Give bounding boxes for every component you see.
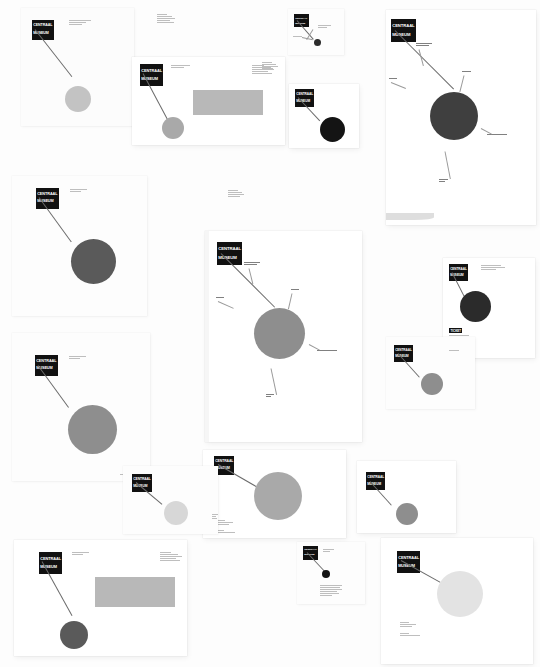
sheet-envelope-bottom[interactable]: CENTRAAL MUSEUM	[14, 540, 187, 656]
brand-dot	[60, 621, 88, 649]
address-window	[95, 577, 175, 607]
ticket-label: TICKET	[449, 328, 462, 333]
sheet-letterhead-dark-dot[interactable]: CENTRAAL MUSEUM	[12, 176, 147, 316]
leader-line-main	[395, 30, 454, 89]
logo-line-1: CENTRAAL	[304, 549, 317, 551]
logo-line-1: CENTRAAL	[33, 24, 52, 28]
annotation-line-4	[309, 344, 320, 351]
annotation-bezoek	[389, 78, 397, 80]
sheet-card-grey-dot[interactable]: CENTRAAL MUSEUM	[386, 337, 475, 409]
sheet-card-pale-dot[interactable]: CENTRAAL MUSEUM	[123, 466, 218, 534]
annotation-agenda	[462, 71, 471, 73]
sender-microtext	[171, 65, 190, 69]
logo-line-1: CENTRAAL	[395, 349, 412, 352]
leader-line	[218, 464, 257, 487]
sheet-poster-pale-dot[interactable]: CENTRAAL MUSEUM	[381, 538, 533, 664]
logo-line-1: CENTRAAL	[296, 93, 313, 96]
annotation-line-2	[459, 75, 464, 92]
logo-line-2: MUSEUM	[218, 256, 241, 260]
card-microtext-right	[318, 25, 331, 29]
brand-dot	[164, 501, 188, 525]
sheet-letterhead-portrait[interactable]: CENTRAAL MUSEUM	[21, 8, 134, 126]
annotation-tentoonstelling	[317, 350, 337, 352]
address-microtext	[69, 20, 91, 26]
card-microtext-right	[323, 549, 334, 553]
logo-line-1: CENTRAAL	[40, 557, 61, 561]
annotation-bezoek	[216, 297, 224, 299]
footer-microtext-2	[215, 530, 235, 534]
address-window	[193, 90, 263, 115]
artboard: CENTRAAL MUSEUM CENTRAAL MUSEUM CENTRAAL…	[0, 0, 540, 667]
annotation-line-2	[288, 293, 293, 309]
logo-line-1: CENTRAAL	[37, 193, 57, 197]
sheet-letterhead-grey-dot[interactable]: CENTRAAL MUSEUM	[12, 333, 150, 481]
logo-line-2: MUSEUM	[367, 483, 384, 486]
sheet-business-card-black-dot[interactable]: CENTRAAL MUSEUM	[289, 84, 359, 148]
brand-dot	[314, 39, 321, 46]
sheet-poster-annotated-dark[interactable]: CENTRAAL MUSEUM	[386, 10, 536, 225]
brand-dot	[322, 570, 330, 578]
brand-dot	[71, 239, 116, 284]
stamp-microtext	[160, 552, 182, 562]
address-microtext	[70, 189, 87, 193]
brand-dot	[68, 405, 117, 454]
logo-line-1: CENTRAAL	[367, 476, 384, 479]
logo-line-1: CENTRAAL	[450, 268, 467, 271]
bottom-band	[386, 213, 434, 220]
logo-line-2: MUSEUM	[392, 33, 414, 37]
ticket-header-microtext	[481, 265, 505, 271]
sheet-card-grey-dot-2[interactable]: CENTRAAL MUSEUM	[357, 461, 456, 533]
annotation-line-3	[391, 82, 406, 89]
logo-line-1: CENTRAAL	[141, 69, 162, 73]
logo-line-1: CENTRAAL	[392, 24, 414, 28]
sender-microtext	[72, 552, 89, 556]
logo-line-1: CENTRAAL	[218, 247, 241, 251]
brand-dot	[430, 92, 478, 140]
sheet-card-tiny-black-dot[interactable]: CENTRAAL MUSEUM	[297, 542, 365, 604]
poster-edge-highlight	[205, 231, 209, 442]
brand-dot	[421, 373, 443, 395]
brand-dot	[254, 308, 305, 359]
brand-dot	[254, 472, 302, 520]
address-microtext	[69, 356, 86, 360]
annotation-line-5	[445, 151, 451, 179]
footer-microtext-2	[400, 633, 420, 637]
brand-dot	[65, 86, 91, 112]
annotation-line-5	[271, 368, 278, 395]
annotation-collectie	[244, 262, 260, 266]
card-microtext	[449, 350, 463, 352]
sheet-flyer-grey-dot[interactable]: CENTRAAL MUSEUM	[203, 450, 346, 538]
annotation-educatie	[266, 394, 274, 398]
brand-dot	[437, 571, 483, 617]
logo-block: CENTRAAL MUSEUM	[132, 474, 152, 492]
brand-dot	[460, 291, 491, 322]
annotation-agenda	[291, 289, 299, 291]
side-microtext	[212, 514, 218, 520]
brand-dot	[320, 117, 345, 142]
annotation-line-3	[218, 301, 234, 309]
floating-microtext-topright	[262, 62, 278, 70]
floating-microtext-mid	[228, 190, 244, 198]
card-microtext-left	[293, 36, 302, 38]
brand-dot	[396, 503, 418, 525]
logo-line-1: CENTRAAL	[36, 360, 56, 364]
sheet-poster-annotated-grey[interactable]: CENTRAAL MUSEUM	[205, 231, 362, 442]
footer-microtext	[320, 585, 342, 598]
annotation-educatie	[439, 179, 448, 183]
footer-microtext-1	[400, 622, 416, 628]
brand-dot	[162, 117, 184, 139]
annotation-collectie	[416, 43, 432, 47]
sheet-business-card-small[interactable]: CENTRAAL MUSEUM	[288, 9, 344, 55]
floating-microtext-top	[157, 14, 175, 24]
